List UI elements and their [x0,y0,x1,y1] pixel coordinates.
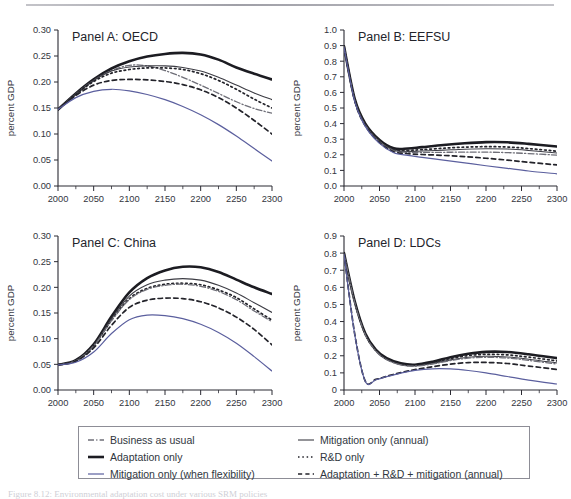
series-line [344,253,557,365]
y-tick-label: 0.25 [33,257,51,267]
legend-label: Adaptation only [110,451,182,463]
x-tick-label: 2100 [405,398,426,408]
y-tick-label: 0.20 [33,283,51,293]
x-tick-label: 2200 [476,398,497,408]
x-tick-label: 2300 [547,398,568,408]
x-tick-label: 2200 [476,194,497,204]
x-tick-label: 2000 [48,398,69,408]
y-tick-label: 0.4 [324,119,337,129]
y-tick-label: 0.30 [33,231,51,241]
y-tick-label: 0.30 [33,25,51,35]
y-tick-label: 0.3 [324,334,337,344]
y-tick-label: 0 [332,385,337,395]
legend-swatch-icon [87,434,105,446]
series-line [344,47,557,165]
legend-swatch-icon [297,451,315,463]
x-tick-label: 2250 [226,398,247,408]
figure-caption: Figure 8.12: Environmental adaptation co… [8,489,568,499]
panel-title: Panel C: China [72,236,156,250]
y-tick-label: 0.25 [33,51,51,61]
x-tick-label: 2100 [119,194,140,204]
legend-swatch-icon [297,468,315,480]
x-tick-label: 2150 [440,398,461,408]
x-tick-label: 2050 [369,194,390,204]
legend-swatch-icon [297,434,315,446]
figure-legend: Business as usualAdaptation onlyMitigati… [78,426,530,479]
legend-label: R&D only [320,451,364,463]
y-tick-label: 0.8 [324,57,337,67]
y-tick-label: 0.7 [324,72,337,82]
series-line [58,284,272,365]
y-tick-label: 0.10 [33,334,51,344]
y-tick-label: 0.10 [33,129,51,139]
figure-page: 0.000.050.100.150.200.250.30200020502100… [0,0,571,499]
x-tick-label: 2000 [48,194,69,204]
y-tick-label: 0.5 [324,300,337,310]
x-tick-label: 2250 [511,398,532,408]
panel-c: 0.000.050.100.150.200.250.30200020502100… [0,220,286,424]
y-tick-label: 0.15 [33,308,51,318]
legend-item: Adaptation + R&D + mitigation (annual) [297,466,503,482]
x-tick-label: 2250 [511,194,532,204]
series-line [58,79,272,134]
x-tick-label: 2300 [547,194,568,204]
y-tick-label: 0.5 [324,103,337,113]
x-tick-label: 2150 [440,194,461,204]
legend-item: Business as usual [87,432,195,448]
legend-swatch-icon [87,451,105,463]
y-tick-label: 0.1 [324,368,337,378]
y-tick-label: 0.8 [324,249,337,259]
y-axis-title: percent GDP [291,284,302,341]
x-tick-label: 2200 [190,398,211,408]
y-tick-label: 1.0 [324,25,337,35]
y-tick-label: 0.9 [324,231,337,241]
panel-a: 0.000.050.100.150.200.250.30200020502100… [0,14,286,220]
x-tick-label: 2050 [369,398,390,408]
y-tick-label: 0.05 [33,360,51,370]
series-line [344,47,557,173]
x-tick-label: 2000 [334,398,355,408]
y-tick-label: 0.00 [33,385,51,395]
x-tick-label: 2300 [262,398,283,408]
x-tick-label: 2050 [83,398,104,408]
series-line [58,283,272,365]
y-tick-label: 0.6 [324,88,337,98]
x-tick-label: 2150 [155,194,176,204]
legend-item: R&D only [297,449,364,465]
y-tick-label: 0.0 [324,181,337,191]
x-tick-label: 2100 [405,194,426,204]
y-tick-label: 0.05 [33,155,51,165]
legend-item: Mitigation only (annual) [297,432,429,448]
panel-title: Panel A: OECD [72,30,158,44]
series-line [58,65,272,113]
series-line [344,254,557,384]
panel-b: 0.00.10.20.30.40.50.60.70.80.91.02000205… [286,14,571,220]
x-tick-label: 2300 [262,194,283,204]
x-tick-label: 2050 [83,194,104,204]
y-tick-label: 0.2 [324,351,337,361]
y-axis-title: percent GDP [291,79,302,136]
panel-title: Panel D: LDCs [358,236,441,250]
legend-label: Mitigation only (when flexibility) [110,468,255,480]
x-tick-label: 2100 [119,398,140,408]
x-tick-label: 2000 [334,194,355,204]
series-line [344,46,557,149]
y-tick-label: 0.2 [324,150,337,160]
x-tick-label: 2200 [190,194,211,204]
legend-label: Mitigation only (annual) [320,434,429,446]
x-tick-label: 2250 [226,194,247,204]
y-tick-label: 0.7 [324,266,337,276]
x-tick-label: 2150 [155,398,176,408]
y-tick-label: 0.15 [33,103,51,113]
panel-d: 00.10.20.30.40.50.60.70.80.9200020502100… [286,220,571,424]
y-axis-title: percent GDP [5,79,16,136]
y-tick-label: 0.1 [324,166,337,176]
legend-swatch-icon [87,468,105,480]
y-tick-label: 0.20 [33,77,51,87]
series-line [58,53,272,110]
legend-items: Business as usualAdaptation onlyMitigati… [79,427,529,478]
page-top-rule [26,4,554,6]
legend-label: Adaptation + R&D + mitigation (annual) [320,468,503,480]
y-axis-title: percent GDP [5,284,16,341]
series-line [58,89,272,161]
